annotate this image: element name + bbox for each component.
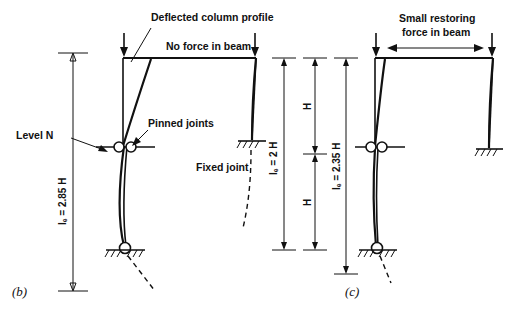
panel-caption-b: (b)	[12, 284, 27, 299]
label-level-n: Level N	[16, 129, 53, 141]
column-left-deflected-upper-b	[123, 59, 151, 146]
label-fixed-joint: Fixed joint	[196, 161, 249, 173]
dimension-label-285h: lₑ = 2.85 H	[57, 178, 68, 225]
fixed-support-c	[475, 149, 503, 156]
label-small-restoring-force-line2: force in beam	[402, 26, 470, 38]
pinned-base-support-c	[358, 243, 397, 258]
pinned-base-support-b	[105, 243, 145, 258]
load-arrow-left-c	[372, 33, 380, 57]
pinned-joint-left-b	[114, 142, 124, 152]
pinned-joint-right-c	[377, 142, 387, 152]
figure-root: lₑ = 2.85 H	[0, 0, 527, 317]
column-continuation-c	[380, 256, 391, 283]
column-continuation-b	[128, 256, 155, 291]
load-arrow-right-c	[488, 33, 496, 57]
pinned-joint-left-c	[366, 142, 376, 152]
column-left-axis-lower-b	[124, 146, 127, 246]
dimension-line-285h	[58, 53, 88, 291]
dimension-label-2h: lₑ = 2 H	[268, 142, 279, 176]
dimension-label-h-upper: H	[302, 103, 313, 110]
panel-caption-c: (c)	[345, 284, 359, 299]
load-arrow-right-b	[251, 33, 259, 57]
dimension-label-235h: lₑ = 2.35 H	[331, 143, 342, 190]
label-small-restoring-force-line1: Small restoring	[399, 12, 475, 24]
fixed-support-b	[237, 141, 266, 148]
column-left-deflected-lower-c	[374, 148, 376, 246]
label-deflected-column-profile: Deflected column profile	[151, 11, 274, 23]
dimension-label-h-lower: H	[302, 199, 313, 206]
leader-level-n-b	[71, 138, 108, 152]
label-pinned-joints: Pinned joints	[148, 117, 214, 129]
column-left-axis-lower-c	[377, 148, 379, 246]
dimension-line-storey-heights	[303, 58, 327, 250]
label-no-force-in-beam: No force in beam	[166, 40, 251, 52]
load-arrow-left-b	[120, 33, 128, 57]
column-left-deflected-upper-c	[375, 59, 385, 146]
leader-pinned-joints-b	[132, 130, 148, 146]
restoring-force-arrow-c	[387, 44, 484, 52]
figure-canvas: lₑ = 2.85 H	[0, 0, 527, 317]
